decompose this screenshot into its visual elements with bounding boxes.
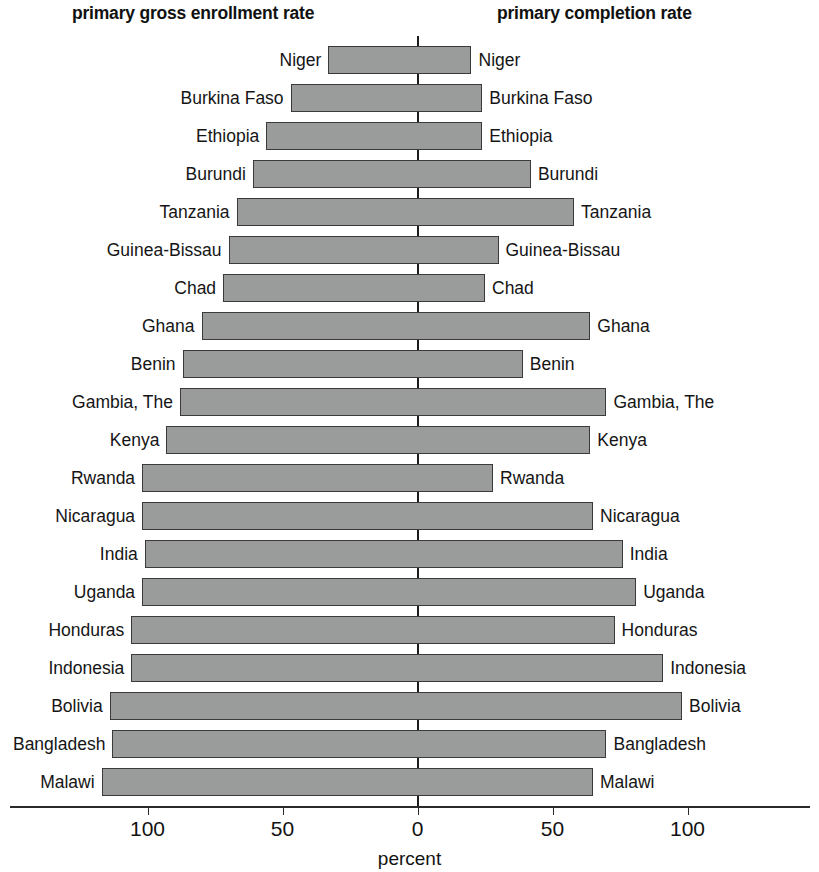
row-label-right: Ghana [597,315,650,337]
bar-indonesia [131,654,663,682]
row-label-right: Rwanda [500,467,564,489]
row-label-left: Malawi [40,771,94,793]
bar-benin [183,350,523,378]
bar-row: ChadChad [0,270,819,308]
row-label-right: Kenya [597,429,647,451]
left-series-title: primary gross enrollment rate [72,3,314,24]
row-label-left: India [100,543,138,565]
bar-malawi [102,768,593,796]
bar-row: BangladeshBangladesh [0,726,819,764]
bar-row: MalawiMalawi [0,764,819,802]
chart-container: primary gross enrollment rate primary co… [0,0,819,872]
bar-kenya [166,426,590,454]
bar-row: GhanaGhana [0,308,819,346]
bar-row: KenyaKenya [0,422,819,460]
row-label-left: Kenya [110,429,160,451]
row-label-right: India [630,543,668,565]
tick-label: 50 [541,817,564,841]
bar-bangladesh [112,730,606,758]
row-label-right: Malawi [600,771,654,793]
bar-row: BurundiBurundi [0,156,819,194]
bar-row: EthiopiaEthiopia [0,118,819,156]
row-label-left: Indonesia [48,657,124,679]
chart-header: primary gross enrollment rate primary co… [0,0,819,30]
row-label-left: Tanzania [160,201,230,223]
bar-honduras [131,616,614,644]
x-axis: 10050050100 percent [0,806,819,872]
row-label-right: Honduras [622,619,698,641]
bar-niger [328,46,471,74]
row-label-right: Guinea-Bissau [506,239,621,261]
tick-mark [418,806,420,815]
bar-row: NicaraguaNicaragua [0,498,819,536]
bar-row: BeninBenin [0,346,819,384]
row-label-left: Chad [174,277,216,299]
row-label-right: Niger [479,49,521,71]
axis-title: percent [0,848,819,870]
tick-label: 100 [670,817,705,841]
row-label-left: Honduras [48,619,124,641]
row-label-right: Burundi [538,163,598,185]
bar-row: BoliviaBolivia [0,688,819,726]
row-label-right: Nicaragua [600,505,680,527]
bar-burkina-faso [291,84,483,112]
bar-guinea-bissau [229,236,499,264]
row-label-left: Benin [131,353,176,375]
row-label-left: Burundi [185,163,245,185]
bar-rwanda [142,464,493,492]
tick-mark [148,806,150,815]
row-label-right: Burkina Faso [489,87,592,109]
bar-row: NigerNiger [0,42,819,80]
bar-row: TanzaniaTanzania [0,194,819,232]
row-label-right: Ethiopia [489,125,552,147]
row-label-left: Bolivia [51,695,103,717]
bar-row: Gambia, TheGambia, The [0,384,819,422]
row-label-right: Indonesia [670,657,746,679]
row-label-left: Burkina Faso [181,87,284,109]
bar-row: RwandaRwanda [0,460,819,498]
tick-label: 100 [130,817,165,841]
bar-ethiopia [266,122,482,150]
bar-nicaragua [142,502,593,530]
bar-row: IndiaIndia [0,536,819,574]
bar-bolivia [110,692,682,720]
bar-row: Burkina FasoBurkina Faso [0,80,819,118]
row-label-left: Bangladesh [13,733,105,755]
bar-row: HondurasHonduras [0,612,819,650]
row-label-right: Bangladesh [614,733,706,755]
row-label-right: Benin [530,353,575,375]
row-label-left: Niger [280,49,322,71]
row-label-left: Nicaragua [55,505,135,527]
row-label-right: Uganda [643,581,704,603]
plot-area: NigerNigerBurkina FasoBurkina FasoEthiop… [0,36,819,806]
row-label-left: Guinea-Bissau [107,239,222,261]
bar-ghana [202,312,591,340]
axis-line [10,806,810,808]
row-label-left: Rwanda [71,467,135,489]
tick-label: 50 [271,817,294,841]
row-label-left: Uganda [74,581,135,603]
bar-tanzania [237,198,575,226]
bar-uganda [142,578,636,606]
tick-label: 0 [412,817,424,841]
bar-gambia-the [180,388,607,416]
row-label-left: Gambia, The [72,391,173,413]
bar-chad [223,274,485,302]
bar-row: UgandaUganda [0,574,819,612]
row-label-right: Gambia, The [614,391,715,413]
row-label-left: Ethiopia [196,125,259,147]
row-label-right: Chad [492,277,534,299]
bar-row: IndonesiaIndonesia [0,650,819,688]
bar-row: Guinea-BissauGuinea-Bissau [0,232,819,270]
bar-india [145,540,623,568]
row-label-left: Ghana [142,315,195,337]
right-series-title: primary completion rate [497,3,692,24]
tick-mark [688,806,690,815]
tick-mark [283,806,285,815]
row-label-right: Tanzania [581,201,651,223]
row-label-right: Bolivia [689,695,741,717]
tick-mark [553,806,555,815]
bar-burundi [253,160,531,188]
